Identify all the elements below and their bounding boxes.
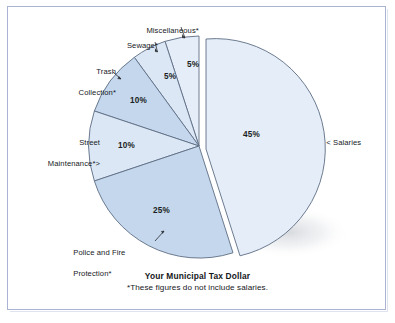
chart-footnote: *These figures do not include salaries. (0, 283, 395, 292)
label-salaries-text: < Salaries (326, 138, 361, 147)
label-trash-collection-line1: Trash (96, 67, 116, 76)
label-street-maintenance-line1: Street (79, 138, 100, 147)
label-street-maintenance: Street Maintenance*> (14, 128, 100, 180)
value-label-street-maintenance: 10% (118, 141, 135, 150)
chart-title: Your Municipal Tax Dollar (0, 271, 395, 281)
label-police-fire-line1: Police and Fire (73, 248, 125, 257)
value-label-sewage: 5% (164, 72, 176, 81)
chart-caption: Your Municipal Tax Dollar *These figures… (0, 271, 395, 292)
value-label-salaries: 45% (243, 130, 260, 139)
value-label-trash-collection: 10% (130, 96, 147, 105)
pie-chart-stage: Miscellaneous* Sewage* Trash Collection*… (0, 0, 395, 323)
chart-page: Miscellaneous* Sewage* Trash Collection*… (0, 0, 395, 323)
value-label-miscellaneous: 5% (187, 60, 199, 69)
label-street-maintenance-line2: Maintenance*> (48, 159, 100, 168)
value-label-police-fire: 25% (153, 206, 170, 215)
label-salaries: < Salaries (313, 128, 387, 159)
label-trash-collection-line2: Collection* (79, 88, 116, 97)
label-trash-collection: Trash Collection* (44, 57, 116, 109)
label-sewage-text: Sewage* (127, 41, 158, 50)
